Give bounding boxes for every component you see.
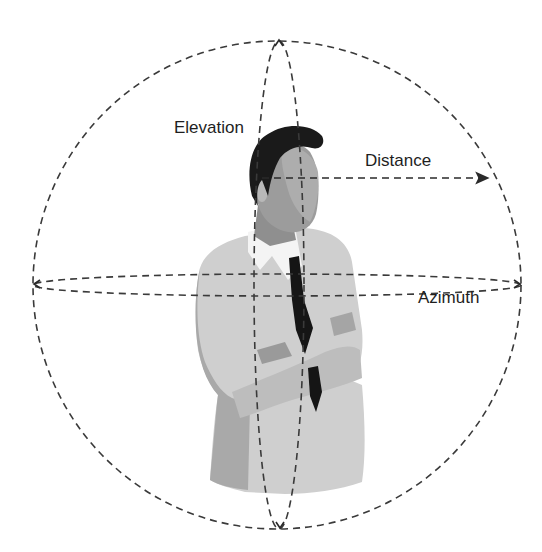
spherical-coordinates-diagram: [0, 0, 542, 552]
elevation-label: Elevation: [174, 118, 244, 138]
azimuth-left-arrowhead: [34, 280, 40, 288]
azimuth-label: Azimuth: [418, 288, 479, 308]
distance-label: Distance: [365, 151, 431, 171]
person-figure: [196, 126, 365, 494]
